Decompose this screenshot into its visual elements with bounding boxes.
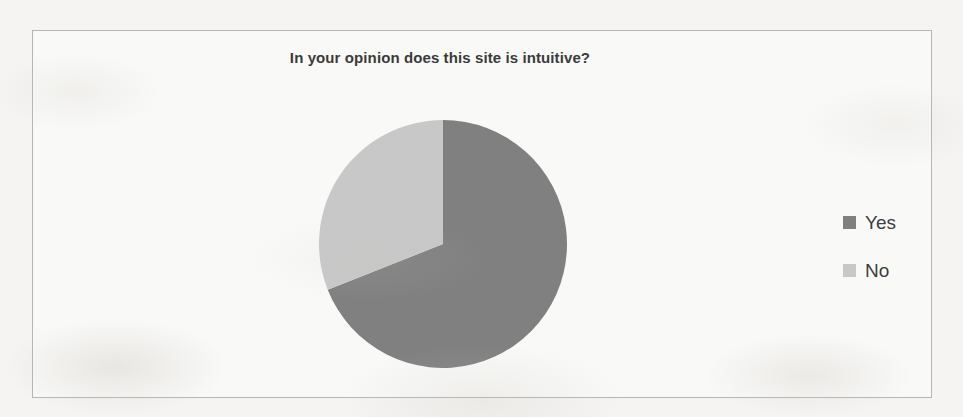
chart-legend: Yes No (843, 198, 923, 294)
legend-label-yes: Yes (865, 213, 896, 232)
pie-chart (318, 119, 568, 369)
legend-item-no[interactable]: No (843, 246, 923, 294)
chart-frame: In your opinion does this site is intuit… (32, 30, 932, 398)
plot-area: Yes No (33, 31, 931, 397)
legend-swatch-yes (843, 216, 856, 229)
legend-item-yes[interactable]: Yes (843, 198, 923, 246)
legend-label-no: No (865, 261, 889, 280)
legend-swatch-no (843, 264, 856, 277)
